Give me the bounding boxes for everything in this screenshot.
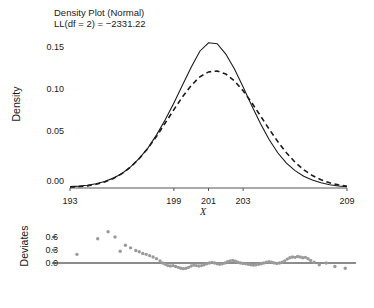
deviate-point bbox=[155, 257, 158, 260]
density-plot-figure: Density Plot (Normal) LL(df = 2) = −2331… bbox=[0, 0, 374, 308]
x-tick-label-209: 209 bbox=[332, 196, 362, 206]
deviate-point bbox=[75, 253, 78, 256]
x-tick-label-193: 193 bbox=[55, 196, 85, 206]
fitted-normal-curve bbox=[70, 71, 347, 187]
deviate-point bbox=[344, 267, 347, 270]
deviate-point bbox=[333, 265, 336, 268]
deviate-point bbox=[129, 246, 132, 249]
deviate-point bbox=[144, 253, 147, 256]
deviate-point bbox=[113, 235, 116, 238]
deviate-point bbox=[96, 237, 99, 240]
deviate-point bbox=[134, 249, 137, 252]
deviate-point bbox=[124, 244, 127, 247]
deviate-point bbox=[119, 250, 122, 253]
deviates-scatter-points bbox=[75, 230, 347, 270]
x-tick-label-199: 199 bbox=[159, 196, 189, 206]
deviate-point bbox=[106, 230, 109, 233]
deviate-point bbox=[309, 259, 312, 262]
deviate-point bbox=[148, 254, 151, 257]
empirical-density-curve bbox=[70, 43, 347, 187]
deviate-point bbox=[325, 261, 328, 264]
plot-canvas bbox=[0, 0, 374, 308]
deviate-point bbox=[312, 260, 315, 263]
deviate-point bbox=[158, 259, 161, 262]
deviate-point bbox=[138, 250, 141, 253]
x-tick-label-201: 201 bbox=[194, 196, 224, 206]
x-tick-label-203: 203 bbox=[228, 196, 258, 206]
deviate-point bbox=[318, 263, 321, 266]
deviate-point bbox=[141, 252, 144, 255]
deviate-point bbox=[151, 255, 154, 258]
density-curves bbox=[70, 43, 347, 188]
